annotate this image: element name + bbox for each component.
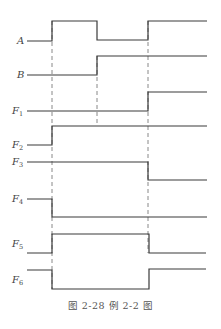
waveform-f4 (27, 199, 207, 217)
signal-label-f2: F2 (11, 139, 23, 152)
signal-waveforms (27, 21, 207, 289)
signal-labels: ABF1F2F3F4F5F6 (11, 35, 24, 287)
signal-label-f1: F1 (11, 105, 23, 118)
signal-label-b: B (16, 69, 24, 80)
guide-lines (52, 21, 148, 289)
signal-label-a: A (16, 35, 24, 46)
waveform-a (27, 21, 207, 41)
waveform-b (27, 56, 207, 75)
signal-label-f3: F3 (11, 156, 23, 169)
signal-label-f6: F6 (11, 274, 23, 287)
timing-diagram: ABF1F2F3F4F5F6 (0, 0, 221, 329)
waveform-f6 (27, 269, 206, 289)
figure-caption: 图 2-28 例 2-2 图 (0, 298, 221, 312)
signal-label-f5: F5 (11, 238, 23, 251)
waveform-f3 (27, 162, 207, 180)
signal-label-f4: F4 (11, 193, 23, 206)
waveform-f2 (27, 126, 207, 145)
waveform-f1 (27, 92, 207, 111)
waveform-f5 (27, 234, 206, 253)
